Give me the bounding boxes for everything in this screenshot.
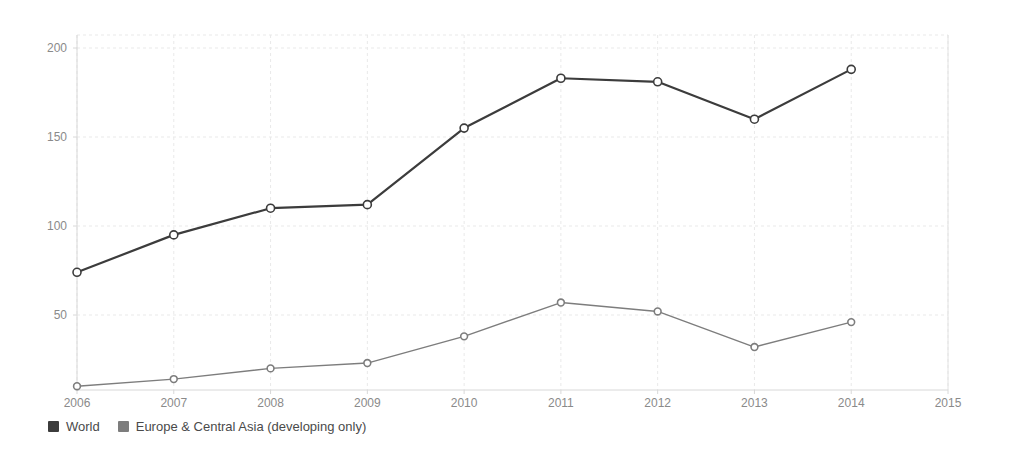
y-axis-tick-label: 50: [54, 308, 68, 322]
y-axis-tick-label: 150: [47, 130, 67, 144]
y-axis-ticks: 50100150200: [47, 41, 77, 322]
x-axis-ticks: 2006200720082009201020112012201320142015: [64, 390, 962, 410]
line-chart: 50100150200 2006200720082009201020112012…: [0, 0, 1009, 457]
x-axis-tick-label: 2009: [354, 396, 381, 410]
data-point[interactable]: [557, 74, 565, 82]
data-point[interactable]: [267, 365, 274, 372]
x-axis-tick-label: 2006: [64, 396, 91, 410]
plot-border-group: [77, 35, 948, 390]
data-point[interactable]: [751, 344, 758, 351]
y-axis-tick-label: 100: [47, 219, 67, 233]
x-axis-tick-label: 2012: [644, 396, 671, 410]
data-point[interactable]: [654, 308, 661, 315]
data-point[interactable]: [654, 78, 662, 86]
legend-item[interactable]: Europe & Central Asia (developing only): [118, 420, 367, 433]
y-axis-tick-label: 200: [47, 41, 67, 55]
chart-canvas: 50100150200 2006200720082009201020112012…: [0, 0, 1009, 457]
legend-swatch-icon: [48, 421, 59, 432]
x-axis-tick-label: 2014: [838, 396, 865, 410]
data-point[interactable]: [847, 65, 855, 73]
grid-lines: [77, 35, 948, 390]
data-point[interactable]: [750, 115, 758, 123]
legend-item[interactable]: World: [48, 420, 100, 433]
x-axis-tick-label: 2008: [257, 396, 284, 410]
data-point[interactable]: [363, 201, 371, 209]
x-axis-tick-label: 2011: [548, 396, 574, 410]
legend-label: World: [66, 420, 100, 433]
data-point[interactable]: [460, 124, 468, 132]
x-axis-tick-label: 2010: [451, 396, 478, 410]
x-axis-tick-label: 2013: [741, 396, 768, 410]
data-point[interactable]: [74, 383, 81, 390]
legend-label: Europe & Central Asia (developing only): [136, 420, 367, 433]
legend-swatch-icon: [118, 421, 129, 432]
x-axis-tick-label: 2007: [160, 396, 187, 410]
data-point[interactable]: [73, 268, 81, 276]
data-point[interactable]: [267, 204, 275, 212]
x-axis-tick-label: 2015: [935, 396, 962, 410]
data-point[interactable]: [557, 299, 564, 306]
chart-legend: WorldEurope & Central Asia (developing o…: [48, 420, 384, 433]
data-point[interactable]: [364, 360, 371, 367]
data-point[interactable]: [170, 376, 177, 383]
data-point[interactable]: [848, 319, 855, 326]
data-point[interactable]: [170, 231, 178, 239]
data-point[interactable]: [461, 333, 468, 340]
